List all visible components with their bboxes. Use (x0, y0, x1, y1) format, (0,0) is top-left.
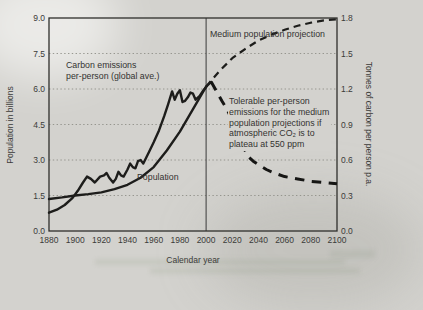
x-axis-title: Calendar year (166, 255, 219, 265)
y-right-tick-label: 0.6 (341, 155, 353, 165)
x-tick-label: 2020 (223, 235, 242, 245)
x-tick-label: 1980 (170, 235, 189, 245)
y-left-tick-label: 9.0 (33, 13, 45, 23)
y-left-tick-label: 1.5 (33, 191, 45, 201)
x-tick-label: 2080 (301, 235, 320, 245)
y-right-tick-label: 0.9 (341, 120, 353, 130)
annotation-line: atmospheric CO₂ is to (229, 128, 329, 139)
annotation-population: Population (137, 172, 179, 183)
x-tick-label: 2100 (328, 235, 347, 245)
annotation-line: Carbon emissions (66, 60, 159, 71)
y-right-tick-label: 1.5 (341, 49, 353, 59)
y-right-tick-label: 0.3 (341, 191, 353, 201)
y-left-tick-label: 6.0 (33, 84, 45, 94)
x-tick-label: 1880 (40, 235, 59, 245)
x-tick-label: 1940 (118, 235, 137, 245)
annotation-line: plateau at 550 ppm (229, 139, 329, 150)
x-tick-label: 2040 (249, 235, 268, 245)
y-left-tick-label: 0.0 (33, 226, 45, 236)
x-tick-label: 2060 (275, 235, 294, 245)
y-left-tick-label: 3.0 (33, 155, 45, 165)
annotation-line: per-person (global ave.) (66, 71, 159, 82)
series-population-historical (49, 87, 206, 199)
series-carbon-emissions-historical (49, 82, 211, 213)
annotation-tolerable-emissions: Tolerable per-person emissions for the m… (228, 96, 331, 151)
x-tick-label: 1960 (144, 235, 163, 245)
x-tick-label: 1900 (66, 235, 85, 245)
y-right-tick-label: 1.8 (341, 13, 353, 23)
annotation-medium-projection: Medium population projection (210, 29, 325, 40)
y-right-tick-label: 0.0 (341, 226, 353, 236)
y-axis-title-right: Tonnes of carbon per person p.a. (364, 62, 374, 187)
x-tick-label: 1920 (92, 235, 111, 245)
y-left-tick-label: 4.5 (33, 120, 45, 130)
y-right-tick-label: 1.2 (341, 84, 353, 94)
annotation-line: population projections if (229, 118, 329, 129)
annotation-line: emissions for the medium (229, 107, 329, 118)
y-axis-title-left: Population in billions (5, 86, 15, 164)
annotation-line: Tolerable per-person (229, 96, 329, 107)
x-tick-label: 2000 (197, 235, 216, 245)
annotation-carbon-emissions: Carbon emissions per-person (global ave.… (66, 60, 159, 82)
y-left-tick-label: 7.5 (33, 49, 45, 59)
